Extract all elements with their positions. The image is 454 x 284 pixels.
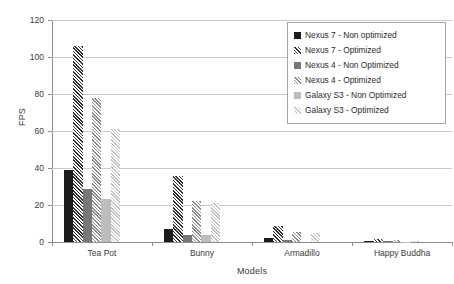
- legend-item-label: Galaxy S3 - Optimized: [305, 106, 389, 114]
- bar: [311, 233, 320, 242]
- legend-swatch-icon: [294, 107, 301, 114]
- bar: [273, 226, 282, 242]
- y-axis-tick-label: 0: [12, 237, 48, 247]
- x-axis-tick-mark: [352, 242, 353, 246]
- bar: [364, 241, 373, 242]
- bar: [183, 235, 192, 242]
- x-axis-tick-label: Happy Buddha: [374, 248, 430, 258]
- legend-swatch-icon: [294, 77, 301, 84]
- y-axis-tick-mark: [48, 57, 52, 58]
- bar: [373, 239, 382, 242]
- legend-item[interactable]: Nexus 7 - Non optimized: [294, 28, 441, 43]
- legend-item[interactable]: Galaxy S3 - Optimized: [294, 103, 441, 118]
- legend-item-label: Nexus 4 - Optimized: [305, 76, 381, 84]
- bar: [383, 241, 392, 242]
- bar: [101, 199, 110, 242]
- x-axis-tick-label: Tea Pot: [88, 248, 117, 258]
- bar: [283, 240, 292, 242]
- bar: [83, 189, 92, 242]
- bar: [73, 46, 82, 242]
- bar: [173, 176, 182, 242]
- bar: [164, 229, 173, 242]
- legend-item[interactable]: Nexus 4 - Optimized: [294, 73, 441, 88]
- bar: [411, 241, 420, 242]
- y-axis-tick-label: 120: [12, 15, 48, 25]
- y-axis-tick-label: 20: [12, 200, 48, 210]
- bar: [211, 203, 220, 242]
- y-axis-tick-mark: [48, 94, 52, 95]
- legend-item-label: Nexus 7 - Optimized: [305, 46, 381, 54]
- bar: [292, 232, 301, 242]
- legend-item-label: Nexus 7 - Non optimized: [305, 31, 397, 39]
- y-axis-tick-label: 80: [12, 89, 48, 99]
- legend-swatch-icon: [294, 47, 301, 54]
- legend-item-label: Nexus 4 - Non Optimized: [305, 61, 399, 69]
- bar: [264, 238, 273, 242]
- y-axis-tick-label: 40: [12, 163, 48, 173]
- legend-item[interactable]: Nexus 7 - Optimized: [294, 43, 441, 58]
- legend-item[interactable]: Nexus 4 - Non Optimized: [294, 58, 441, 73]
- legend-item[interactable]: Galaxy S3 - Non Optimized: [294, 88, 441, 103]
- chart-legend: Nexus 7 - Non optimizedNexus 7 - Optimiz…: [287, 22, 446, 124]
- x-axis-tick-mark: [452, 242, 453, 246]
- x-axis-tick-mark: [152, 242, 153, 246]
- x-axis-tick-label: Armadillo: [284, 248, 319, 258]
- y-axis-tick-mark: [48, 20, 52, 21]
- x-axis-tick-mark: [52, 242, 53, 246]
- bar: [92, 98, 101, 242]
- legend-swatch-icon: [294, 62, 301, 69]
- x-axis-tick-label: Bunny: [190, 248, 214, 258]
- bar-group: [164, 20, 220, 242]
- bar-chart: FPS 020406080100120 Models Nexus 7 - Non…: [0, 0, 454, 284]
- bar: [201, 235, 210, 242]
- bar-group: [64, 20, 120, 242]
- bar: [392, 240, 401, 242]
- bar: [64, 170, 73, 242]
- bar: [192, 201, 201, 242]
- legend-swatch-icon: [294, 92, 301, 99]
- bar: [111, 129, 120, 242]
- y-axis-tick-mark: [48, 205, 52, 206]
- legend-item-label: Galaxy S3 - Non Optimized: [305, 91, 406, 99]
- y-axis-tick-mark: [48, 168, 52, 169]
- legend-swatch-icon: [294, 32, 301, 39]
- x-axis-title: Models: [52, 266, 452, 276]
- y-axis-tick-mark: [48, 131, 52, 132]
- y-axis-tick-label: 100: [12, 52, 48, 62]
- y-axis-tick-label: 60: [12, 126, 48, 136]
- y-axis-tick-labels: 020406080100120: [12, 20, 48, 242]
- x-axis-tick-mark: [252, 242, 253, 246]
